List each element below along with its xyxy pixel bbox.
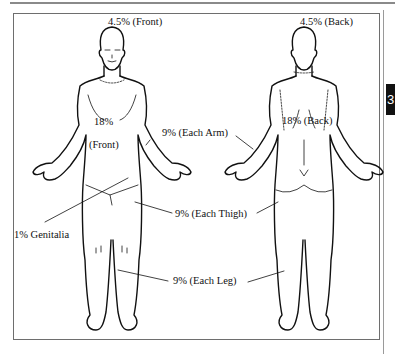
front-collar (100, 80, 124, 83)
back-figure (225, 27, 383, 330)
front-groin-lines (86, 185, 138, 205)
body-figures (0, 0, 395, 354)
front-head (99, 27, 125, 70)
label-arm: 9% (Each Arm) (162, 128, 228, 139)
front-face (105, 50, 120, 62)
leg-leader-left (118, 270, 168, 281)
thigh-leader-left (135, 202, 172, 213)
front-knee-marks (96, 246, 127, 253)
genitalia-leader (45, 178, 128, 222)
back-collar (294, 72, 314, 73)
back-head (291, 27, 317, 70)
front-torso-right (113, 76, 191, 330)
label-thigh: 9% (Each Thigh) (175, 209, 247, 220)
label-head-back: 4.5% (Back) (300, 17, 353, 28)
label-trunk-front-value: 18% (94, 117, 113, 128)
arm-leader-left (146, 140, 150, 145)
label-trunk-back: 18% (Back) (282, 116, 332, 127)
back-buttock-line (276, 185, 332, 192)
label-genitalia: 1% Genitalia (14, 230, 69, 241)
front-torso-left (33, 76, 111, 330)
front-figure (33, 27, 191, 330)
label-leg: 9% (Each Leg) (173, 276, 237, 287)
label-head-front: 4.5% (Front) (108, 17, 162, 28)
label-trunk-front-side: (Front) (89, 140, 119, 151)
arm-leader-right (236, 136, 253, 149)
